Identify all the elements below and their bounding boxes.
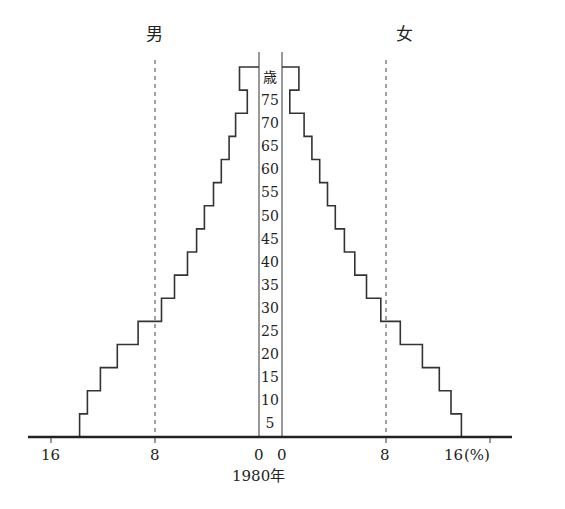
age-tick-label: 60 bbox=[258, 161, 282, 177]
age-tick-label: 35 bbox=[258, 277, 282, 293]
tick-16-left: 16 bbox=[41, 446, 60, 464]
male-label: 男 bbox=[146, 20, 163, 45]
age-tick-label: 10 bbox=[258, 392, 282, 408]
tick-8-right: 8 bbox=[380, 446, 390, 464]
age-tick-label: 15 bbox=[258, 369, 282, 385]
male-outline bbox=[80, 67, 259, 437]
tick-0-left: 0 bbox=[254, 446, 264, 464]
age-tick-label: 5 bbox=[258, 415, 282, 431]
tick-16-right: 16 bbox=[444, 446, 463, 464]
age-tick-label: 25 bbox=[258, 323, 282, 339]
age-tick-label: 45 bbox=[258, 231, 282, 247]
female-label: 女 bbox=[396, 20, 413, 45]
age-tick-label: 75 bbox=[258, 92, 282, 108]
age-tick-label: 20 bbox=[258, 346, 282, 362]
age-tick-label: 50 bbox=[258, 208, 282, 224]
age-tick-label: 70 bbox=[258, 115, 282, 131]
tick-0-right: 0 bbox=[277, 446, 287, 464]
year-label: 1980年 bbox=[232, 464, 285, 485]
unit-label: (%) bbox=[464, 446, 490, 464]
age-tick-label: 40 bbox=[258, 254, 282, 270]
age-tick-label: 65 bbox=[258, 138, 282, 154]
age-tick-label: 55 bbox=[258, 184, 282, 200]
age-tick-label: 30 bbox=[258, 300, 282, 316]
age-unit-label: 歳 bbox=[258, 69, 282, 85]
tick-8-left: 8 bbox=[150, 446, 160, 464]
female-outline bbox=[282, 67, 461, 437]
population-pyramid-chart bbox=[0, 0, 565, 509]
